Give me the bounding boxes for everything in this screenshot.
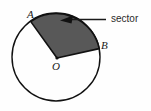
point-label-o: O (52, 61, 60, 72)
sector-callout-label: sector (111, 13, 138, 25)
point-label-b: B (101, 40, 108, 51)
point-label-a: A (27, 9, 34, 20)
geometry-figure: A B O sector (0, 0, 151, 111)
